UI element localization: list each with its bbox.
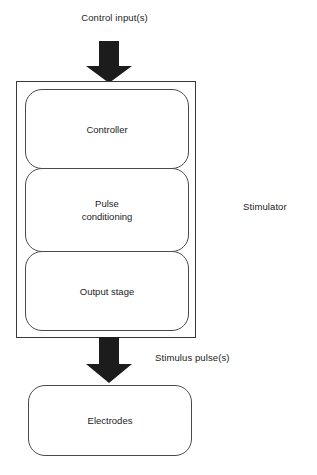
stimulus-pulse-arrow-icon — [85, 337, 133, 383]
block-pulse-conditioning-label-line2: conditioning — [82, 211, 133, 222]
control-input-label: Control input(s) — [0, 12, 229, 24]
stimulator-label: Stimulator — [243, 201, 287, 213]
stimulus-pulse-label: Stimulus pulse(s) — [155, 352, 230, 364]
stimulator-enclosure: Controller Pulse conditioning Output sta… — [16, 81, 196, 338]
block-pulse-conditioning: Pulse conditioning — [25, 168, 189, 252]
block-electrodes-label: Electrodes — [88, 414, 133, 427]
control-input-arrow-icon — [85, 41, 133, 83]
stimulator-block-diagram: Control input(s) Controller Pulse condit… — [0, 0, 317, 475]
block-output-stage: Output stage — [25, 251, 189, 331]
block-controller: Controller — [25, 89, 189, 169]
block-pulse-conditioning-label: Pulse conditioning — [82, 197, 133, 223]
block-electrodes: Electrodes — [28, 385, 192, 456]
block-pulse-conditioning-label-line1: Pulse — [95, 198, 119, 209]
block-output-stage-label: Output stage — [80, 285, 134, 298]
block-controller-label: Controller — [86, 123, 127, 136]
